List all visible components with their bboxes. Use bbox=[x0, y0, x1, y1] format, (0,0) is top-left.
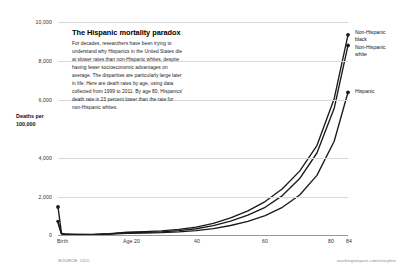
x-tick-80: 80 bbox=[328, 238, 334, 244]
series-endpoint-non-hispanic-black bbox=[346, 33, 350, 37]
x-tick-age20: Age 20 bbox=[123, 238, 140, 244]
gridline-10000 bbox=[58, 22, 348, 23]
chart-figure: 10,000 8,000 6,000 4,000 2,000 0 Deaths … bbox=[0, 0, 404, 280]
gridline-2000 bbox=[58, 197, 348, 198]
gridline-4000 bbox=[58, 158, 348, 159]
y-axis-title-line2: 100,000 bbox=[16, 121, 64, 129]
y-axis-title-line1: Deaths per bbox=[16, 113, 64, 121]
chart-headline: The Hispanic mortality paradox bbox=[72, 28, 184, 37]
y-axis-title: Deaths per 100,000 bbox=[16, 113, 64, 129]
y-tick-0: 0 bbox=[0, 232, 52, 238]
series-label-hispanic-text: Hispanic bbox=[355, 88, 375, 94]
series-label-hispanic: Hispanic bbox=[355, 88, 375, 95]
x-tick-60: 60 bbox=[262, 238, 268, 244]
series-label-white-line2: white bbox=[355, 51, 367, 57]
x-tick-40: 40 bbox=[194, 238, 200, 244]
gridline-zero bbox=[58, 235, 348, 236]
series-start-marker-non-hispanic-black bbox=[56, 205, 60, 209]
series-endpoint-hispanic bbox=[346, 90, 350, 94]
x-tick-birth: Birth bbox=[57, 238, 68, 244]
series-label-black-line2: black bbox=[355, 36, 367, 42]
y-tick-2000: 2,000 bbox=[0, 194, 52, 200]
chart-deck: For decades, researchers have been tryin… bbox=[72, 40, 184, 111]
series-label-non-hispanic-white: Non-Hispanic white bbox=[355, 44, 386, 58]
chart-text-block: The Hispanic mortality paradox For decad… bbox=[72, 28, 184, 112]
y-tick-4000: 4,000 bbox=[0, 155, 52, 161]
series-label-white-line1: Non-Hispanic bbox=[355, 44, 386, 50]
credit-note: washingtonpost.com/storyline bbox=[337, 258, 396, 263]
y-tick-10000: 10,000 bbox=[0, 19, 52, 25]
source-note: SOURCE: CDC bbox=[58, 258, 90, 263]
x-tick-84: 84 bbox=[346, 238, 352, 244]
series-label-non-hispanic-black: Non-Hispanic black bbox=[355, 29, 386, 43]
series-endpoint-non-hispanic-white bbox=[346, 44, 350, 48]
y-tick-6000: 6,000 bbox=[0, 97, 52, 103]
y-tick-8000: 8,000 bbox=[0, 58, 52, 64]
series-label-black-line1: Non-Hispanic bbox=[355, 29, 386, 35]
